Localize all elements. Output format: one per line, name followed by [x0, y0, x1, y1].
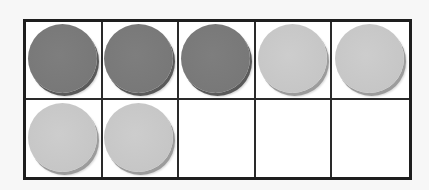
- frame-cell-r1c2: [103, 22, 180, 100]
- frame-cell-r2c4-empty: [256, 100, 333, 178]
- dark-counter-icon: [181, 24, 250, 93]
- light-counter-icon: [104, 103, 173, 172]
- light-counter-icon: [335, 24, 404, 93]
- dark-counter-icon: [28, 24, 97, 93]
- frame-cell-r2c3-empty: [179, 100, 256, 178]
- frame-cell-r2c2: [103, 100, 180, 178]
- light-counter-icon: [258, 24, 327, 93]
- frame-cell-r2c1: [26, 100, 103, 178]
- frame-cell-r1c5: [332, 22, 409, 100]
- frame-cell-r1c4: [256, 22, 333, 100]
- ten-frame: [23, 19, 412, 180]
- light-counter-icon: [28, 103, 97, 172]
- frame-cell-r2c5-empty: [332, 100, 409, 178]
- frame-cell-r1c1: [26, 22, 103, 100]
- dark-counter-icon: [104, 24, 173, 93]
- frame-cell-r1c3: [179, 22, 256, 100]
